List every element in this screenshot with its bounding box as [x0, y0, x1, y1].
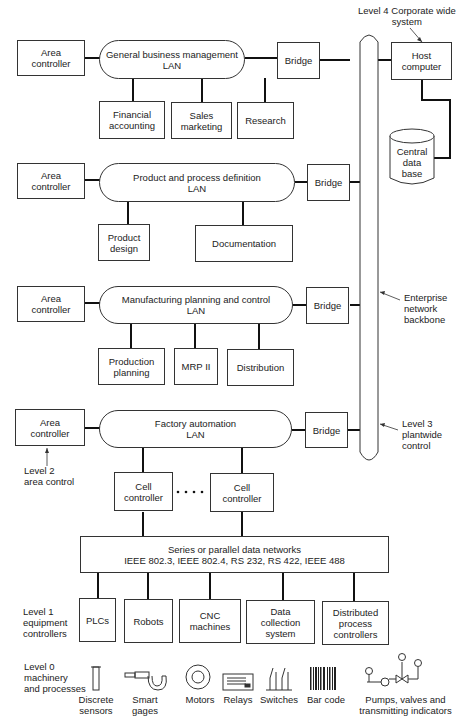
manufacturing-planning-lan[interactable]: Manufacturing planning and controlLAN: [99, 286, 293, 324]
relay-icon: [223, 674, 253, 690]
factory-automation-lan[interactable]: Factory automationLAN: [99, 410, 292, 448]
level-2-label: Level 2area control: [24, 465, 74, 487]
product-design[interactable]: Productdesign: [98, 224, 150, 261]
product-process-lan[interactable]: Product and process definitionLAN: [99, 163, 295, 202]
motor-icon: [186, 665, 210, 689]
enterprise-backbone: [360, 35, 378, 460]
level-4-label: Level 4 Corporate widesystem: [358, 5, 456, 27]
bridge-1[interactable]: Bridge: [277, 42, 320, 79]
host-computer[interactable]: Hostcomputer: [391, 42, 452, 80]
switch-icon: [266, 668, 292, 690]
production-planning[interactable]: Productionplanning: [98, 348, 165, 385]
area-controller-1[interactable]: Areacontroller: [17, 40, 85, 76]
mrp-ii[interactable]: MRP II: [174, 348, 218, 385]
bar-code-label: Bar code: [306, 694, 346, 705]
smart-gages-label: Smartgages: [125, 694, 165, 716]
research[interactable]: Research: [237, 102, 294, 139]
documentation[interactable]: Documentation: [195, 225, 293, 262]
area-controller-3[interactable]: Areacontroller: [17, 286, 85, 322]
backbone-label: Enterprisenetworkbackbone: [404, 292, 447, 325]
smart-gage-icon: [125, 672, 166, 690]
pump-valve-icon: [366, 654, 422, 687]
cnc-machines[interactable]: CNCmachines: [179, 599, 241, 643]
distribution[interactable]: Distribution: [227, 349, 294, 386]
discrete-sensor-icon: [93, 667, 99, 690]
sales-marketing[interactable]: Salesmarketing: [171, 102, 232, 139]
motors-label: Motors: [180, 694, 220, 705]
area-controller-2[interactable]: Areacontroller: [17, 163, 85, 199]
central-database-label: Centraldatabase: [390, 146, 434, 179]
financial-accounting[interactable]: Financialaccounting: [99, 101, 165, 139]
data-collection-system[interactable]: Datacollectionsystem: [246, 600, 315, 644]
robots[interactable]: Robots: [124, 599, 173, 643]
switches-label: Switches: [257, 694, 301, 705]
bridge-4[interactable]: Bridge: [305, 412, 348, 448]
level-0-label: Level 0machineryand processes: [24, 661, 86, 694]
bar-code-icon: [310, 667, 336, 690]
discrete-sensors-label: Discretesensors: [73, 694, 119, 716]
data-network[interactable]: Series or parallel data networksIEEE 802…: [80, 536, 389, 573]
plcs[interactable]: PLCs: [79, 598, 116, 642]
general-business-lan[interactable]: General business managementLAN: [99, 40, 245, 79]
cell-controller-2[interactable]: Cellcontroller: [210, 473, 274, 512]
area-controller-4[interactable]: Areacontroller: [15, 409, 85, 446]
cell-controller-1[interactable]: Cellcontroller: [114, 472, 173, 511]
level-1-label: Level 1equipmentcontrollers: [23, 606, 67, 639]
pumps-valves-label: Pumps, valves andtransmitting indicators: [348, 694, 463, 716]
bridge-2[interactable]: Bridge: [307, 164, 350, 201]
level-3-label: Level 3plantwidecontrol: [402, 418, 442, 451]
distributed-process-controllers[interactable]: Distributedprocesscontrollers: [322, 601, 389, 645]
bridge-3[interactable]: Bridge: [306, 287, 349, 324]
relays-label: Relays: [220, 694, 256, 705]
